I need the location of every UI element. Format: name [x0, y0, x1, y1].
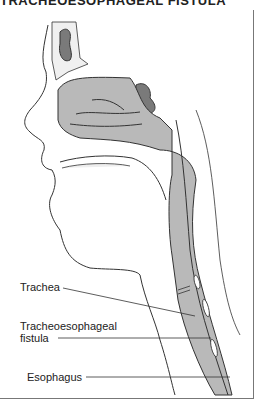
label-trachea: Trachea — [20, 281, 60, 293]
label-fistula-line2: fistula — [20, 332, 49, 344]
frontal-sinus — [59, 29, 71, 61]
sagittal-head-neck-illustration — [0, 0, 260, 406]
label-esophagus: Esophagus — [27, 371, 82, 383]
label-fistula-line1: Tracheoesophageal — [20, 320, 117, 332]
